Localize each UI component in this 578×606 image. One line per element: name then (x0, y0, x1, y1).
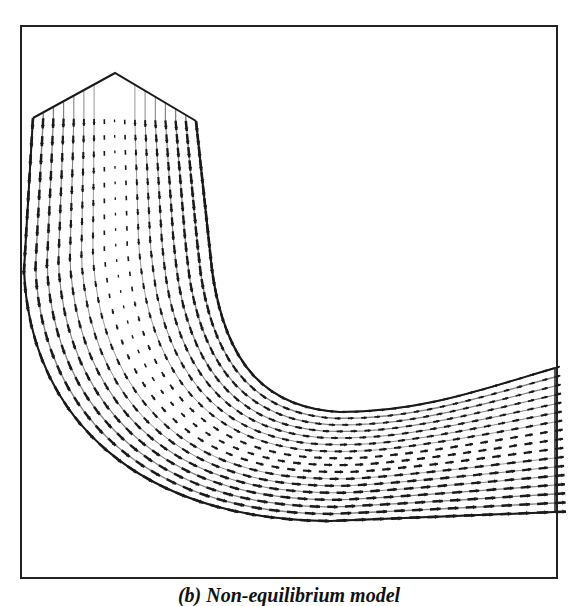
arrow-head (473, 505, 477, 509)
arrow-head (387, 502, 391, 506)
arrow-head (157, 182, 161, 185)
arrow-head (335, 477, 338, 481)
arrow-head (373, 422, 376, 425)
arrow-head (145, 168, 148, 171)
arrow-head (344, 443, 347, 446)
arrow-head (92, 268, 95, 271)
arrow-head (47, 212, 51, 215)
velocity-arrow (109, 294, 110, 299)
arrow-head (312, 511, 316, 515)
arrow-head (170, 223, 174, 226)
outer-wall (24, 118, 555, 521)
arrow-head (321, 436, 324, 439)
arrow-head (92, 236, 95, 239)
arrow-head (314, 483, 317, 487)
arrow-head (51, 125, 55, 128)
arrow-head (146, 182, 149, 185)
arrow-head (160, 239, 164, 242)
arrow-head (81, 206, 84, 209)
arrow-head (363, 436, 366, 439)
arrow-head (145, 153, 148, 156)
arrow-head (93, 122, 96, 125)
arrow-head (356, 470, 359, 474)
streamline (186, 115, 555, 418)
arrow-head (491, 504, 495, 508)
arrow-head (137, 242, 140, 245)
arrow-head (81, 173, 84, 176)
arrow-head (332, 423, 335, 426)
arrow-head (60, 159, 64, 162)
arrow-head (134, 153, 137, 156)
arrow-head (134, 138, 137, 141)
arrow-head (329, 463, 332, 467)
velocity-arrow (107, 278, 108, 283)
streamline (196, 121, 555, 412)
arrow-head (359, 443, 362, 446)
arrow-head (509, 503, 513, 507)
arrow-head (166, 154, 170, 157)
arrow-head (36, 214, 40, 218)
arrow-head (72, 124, 76, 127)
arrow-head (41, 125, 45, 128)
arrow-head (61, 141, 65, 144)
arrow-head (360, 490, 363, 494)
arrow-head (346, 423, 349, 426)
arrow-head (359, 423, 362, 426)
velocity-arrow (145, 364, 147, 368)
arrow-head (373, 496, 377, 500)
arrow-head (309, 449, 312, 452)
arrow-head (309, 490, 312, 494)
arrow-head (326, 491, 329, 495)
arrow-head (158, 196, 162, 199)
arrow-head (144, 139, 147, 142)
arrow-head (71, 140, 75, 143)
arrow-head (136, 212, 139, 215)
arrow-head (159, 224, 163, 227)
arrow-head (364, 416, 367, 419)
streamline (165, 103, 555, 432)
plot-frame (21, 26, 557, 578)
arrow-head (45, 265, 49, 268)
arrow-head (81, 189, 84, 192)
arrow-head (69, 225, 73, 228)
arrow-head (92, 187, 95, 190)
velocity-arrow (152, 377, 154, 381)
arrow-head (59, 210, 63, 213)
arrow-head (331, 484, 334, 488)
velocity-arrow (128, 256, 129, 261)
arrow-head (390, 495, 393, 499)
arrow-head (317, 505, 320, 509)
arrow-head (562, 510, 566, 514)
velocity-arrow (138, 350, 140, 354)
arrow-head (340, 430, 343, 433)
arrow-head (303, 476, 306, 480)
arrow-head (324, 470, 327, 474)
arrow-head (383, 510, 387, 514)
arrow-head (57, 262, 61, 265)
arrow-head (137, 227, 140, 230)
arrow-head (70, 208, 74, 211)
arrow-head (82, 140, 85, 143)
arrow-head (148, 226, 151, 229)
arrow-head (136, 197, 139, 200)
arrow-head (360, 463, 363, 467)
arrow-head (58, 227, 62, 230)
arrow-head (390, 414, 393, 417)
arrow-head (68, 259, 72, 262)
arrow-head (315, 442, 318, 445)
arrow-head (319, 456, 322, 460)
arrow-head (50, 142, 54, 145)
arrow-head (49, 177, 53, 180)
arrow-head (147, 197, 150, 200)
arrow-head (71, 157, 75, 160)
arrow-head (155, 139, 159, 142)
velocity-arrow (127, 321, 128, 324)
arrow-head (314, 463, 317, 467)
arrow-head (82, 156, 85, 159)
arrow-head (354, 450, 357, 453)
arrow-head (354, 430, 357, 433)
arrow-head (401, 509, 405, 513)
arrow-head (437, 507, 441, 511)
streamline (145, 91, 555, 445)
arrow-head (330, 443, 333, 446)
